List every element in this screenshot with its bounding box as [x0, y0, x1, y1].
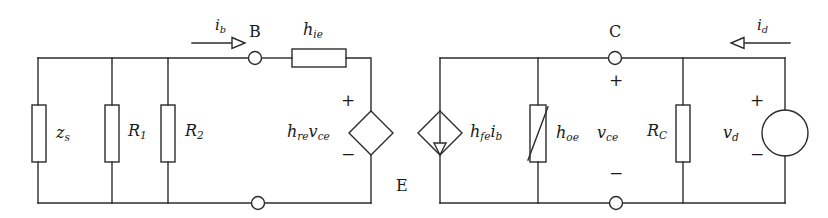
- polarity-hre-plus: +: [341, 92, 355, 109]
- node-e-terminal: [252, 197, 265, 210]
- conductance-hoe-subscript: oe: [566, 131, 579, 143]
- voltage-vce-label: vce: [597, 125, 618, 143]
- voltage-vce-symbol: v: [597, 123, 606, 142]
- source-vd-body: [762, 110, 808, 156]
- impedance-zs-body: [32, 105, 46, 162]
- cccs-h-symbol: h: [470, 122, 480, 141]
- vcvs-h-subscript: re: [297, 130, 308, 142]
- node-b-terminal: [249, 52, 262, 65]
- resistor-hie-subscript: ie: [313, 28, 323, 40]
- resistor-r2-subscript: 2: [197, 129, 204, 141]
- resistor-r2-body: [161, 105, 175, 162]
- node-c-terminal: [609, 52, 622, 65]
- polarity-hre-minus: −: [341, 146, 355, 163]
- current-ib-head: [232, 38, 245, 49]
- conductance-hoe-label: hoe: [556, 125, 579, 143]
- resistor-hie-body: [292, 49, 346, 67]
- vcvs-v-subscript: ce: [318, 130, 330, 142]
- impedance-zs-label: zs: [56, 125, 70, 143]
- resistor-r1-body: [105, 105, 119, 162]
- conductance-hoe-slash: [528, 107, 548, 160]
- circuit-diagram: B C E zs R1 R2 hie hrevce hfeib hoe vce …: [0, 0, 828, 218]
- node-b-label: B: [249, 24, 261, 40]
- polarity-vce-minus: −: [609, 165, 623, 182]
- polarity-vd-minus: −: [750, 146, 764, 163]
- circuit-svg: [0, 0, 828, 218]
- current-id-label: id: [757, 18, 768, 35]
- source-vd-symbol: v: [723, 123, 732, 142]
- current-ib-label: ib: [215, 18, 226, 35]
- cccs-arrow-head: [434, 143, 446, 155]
- node-e-label: E: [396, 178, 408, 194]
- node-e2-terminal: [610, 197, 623, 210]
- polarity-vce-plus: +: [609, 72, 623, 89]
- current-id-head: [731, 38, 744, 49]
- resistor-hie-symbol: h: [303, 20, 313, 39]
- resistor-rc-symbol: R: [647, 121, 659, 140]
- resistor-r1-label: R1: [128, 123, 147, 141]
- cccs-h-subscript: fe: [480, 130, 490, 142]
- resistor-r1-subscript: 1: [140, 129, 147, 141]
- vcvs-hre-vce-label: hrevce: [287, 124, 330, 142]
- source-vd-label: vd: [723, 125, 739, 143]
- resistor-rc-body: [676, 105, 690, 162]
- resistor-r2-symbol: R: [185, 121, 197, 140]
- resistor-hie-label: hie: [303, 22, 323, 40]
- vcvs-v-symbol: v: [309, 122, 318, 141]
- vcvs-hre-vce-body: [349, 111, 393, 155]
- resistor-rc-label: RC: [647, 123, 667, 141]
- cccs-i-subscript: b: [496, 130, 503, 142]
- polarity-vd-plus: +: [750, 92, 764, 109]
- cccs-hfe-ib-label: hfeib: [470, 124, 502, 142]
- conductance-hoe-symbol: h: [556, 123, 566, 142]
- node-c-label: C: [609, 24, 621, 40]
- vcvs-h-symbol: h: [287, 122, 297, 141]
- source-vd-subscript: d: [732, 131, 739, 143]
- current-id-subscript: d: [762, 24, 768, 35]
- resistor-rc-subscript: C: [659, 129, 667, 141]
- impedance-zs-subscript: s: [64, 131, 69, 143]
- voltage-vce-subscript: ce: [606, 131, 618, 143]
- current-ib-subscript: b: [220, 24, 226, 35]
- resistor-r2-label: R2: [185, 123, 204, 141]
- resistor-r1-symbol: R: [128, 121, 140, 140]
